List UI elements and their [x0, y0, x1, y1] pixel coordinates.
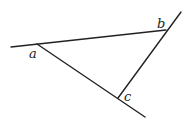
label-c: c: [124, 89, 132, 104]
triangle-diagram: a b c: [0, 0, 192, 124]
label-b: b: [157, 16, 165, 31]
label-a: a: [29, 46, 37, 61]
line-ac: [37, 44, 145, 117]
line-bc: [118, 12, 181, 98]
line-ab: [11, 30, 166, 47]
